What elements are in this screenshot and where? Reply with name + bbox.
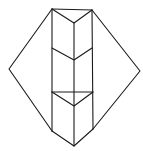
bottom-chevron	[52, 129, 93, 146]
middle-chevron	[52, 48, 92, 60]
outer-right-edge	[92, 10, 140, 129]
geometric-diagram	[0, 0, 143, 151]
top-edge	[52, 9, 92, 10]
right-vertical-edge	[92, 10, 93, 129]
top-chevron	[52, 9, 92, 23]
lower-chevron	[52, 92, 93, 106]
outer-left-edge	[9, 9, 52, 131]
